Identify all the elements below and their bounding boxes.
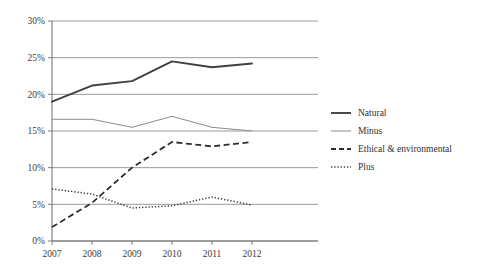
y-tick-label: 0% [32, 236, 45, 246]
legend-swatch-dashed [330, 143, 352, 155]
x-tick-label: 2010 [163, 249, 182, 259]
legend-item-minus[interactable]: Minus [330, 122, 479, 140]
x-tick-label: 2008 [83, 249, 102, 259]
y-tick-label: 25% [28, 53, 46, 63]
x-tick-label: 2007 [43, 249, 62, 259]
y-tick-label: 5% [32, 200, 45, 210]
x-axis-tick-labels: 200720082009201020112012 [43, 249, 262, 259]
line-chart: 0%5%10%15%20%25%30% 20072008200920102011… [0, 0, 330, 275]
series-group [52, 61, 252, 227]
x-tick-label: 2012 [243, 249, 262, 259]
legend-swatch-solid-thick [330, 107, 352, 119]
series-line-minus [52, 116, 252, 131]
chart-page: 0%5%10%15%20%25%30% 20072008200920102011… [0, 0, 479, 275]
legend-item-label: Minus [358, 126, 382, 136]
legend-item-label: Ethical & environmental [358, 144, 452, 154]
y-tick-label: 20% [28, 90, 46, 100]
chart-legend: NaturalMinusEthical & environmentalPlus [330, 104, 479, 176]
series-line-natural [52, 61, 252, 101]
chart-canvas: 0%5%10%15%20%25%30% 20072008200920102011… [0, 0, 330, 275]
y-tick-label: 30% [28, 16, 46, 26]
legend-swatch-dotted [330, 161, 352, 173]
legend-item-natural[interactable]: Natural [330, 104, 479, 122]
legend-item-label: Plus [358, 162, 374, 172]
y-tick-label: 10% [28, 163, 46, 173]
series-line-ethical-environmental [52, 142, 252, 227]
legend-item-plus[interactable]: Plus [330, 158, 479, 176]
legend-swatch-solid-thin [330, 125, 352, 137]
gridlines-group [52, 21, 318, 241]
legend-item-label: Natural [358, 108, 387, 118]
y-axis-tick-labels: 0%5%10%15%20%25%30% [28, 16, 46, 246]
x-tick-label: 2011 [203, 249, 222, 259]
x-tick-label: 2009 [123, 249, 142, 259]
y-tick-label: 15% [28, 126, 46, 136]
legend-item-ethical-environmental[interactable]: Ethical & environmental [330, 140, 479, 158]
series-line-plus [52, 189, 252, 208]
